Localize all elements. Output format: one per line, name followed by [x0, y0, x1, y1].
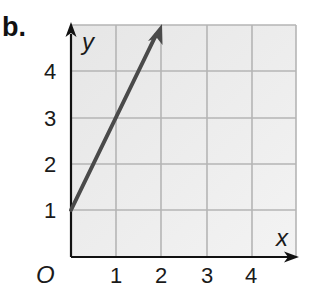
coordinate-graph: y x O 1 2 3 4 4 3 2 1 — [0, 0, 315, 298]
y-tick-3: 3 — [44, 106, 56, 131]
x-tick-1: 1 — [110, 263, 122, 288]
y-tick-4: 4 — [44, 59, 56, 84]
y-tick-1: 1 — [44, 198, 56, 223]
y-tick-2: 2 — [44, 152, 56, 177]
x-tick-3: 3 — [201, 263, 213, 288]
x-axis-label: x — [275, 224, 289, 251]
y-axis-label: y — [80, 28, 96, 55]
x-tick-2: 2 — [155, 263, 167, 288]
x-tick-4: 4 — [245, 263, 257, 288]
origin-label: O — [36, 261, 55, 288]
